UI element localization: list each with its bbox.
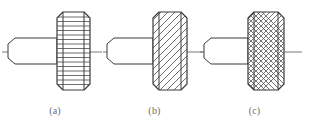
shaft-a <box>8 38 57 64</box>
figure-a-caption: (a) <box>0 106 110 116</box>
figure-a: (a) <box>0 0 110 131</box>
figure-b-caption: (b) <box>103 106 206 116</box>
shaft-b <box>107 38 153 64</box>
figure-b-drawing <box>103 0 206 104</box>
figure-c: (c) <box>200 0 309 131</box>
head-a <box>57 12 90 90</box>
figure-a-drawing <box>0 0 110 104</box>
shaft-c <box>204 38 248 64</box>
drawing-canvas: (a) <box>0 0 309 131</box>
figure-c-drawing <box>200 0 309 104</box>
figure-c-caption: (c) <box>200 106 309 116</box>
figure-b: (b) <box>103 0 206 131</box>
